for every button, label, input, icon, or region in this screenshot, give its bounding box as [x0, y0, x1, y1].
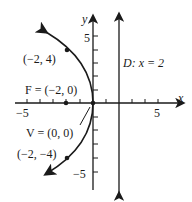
vertex-point — [91, 101, 96, 106]
x-tick-5: 5 — [154, 107, 160, 119]
point-bottom — [65, 156, 70, 161]
x-axis-label: x — [178, 92, 183, 104]
focus-point — [64, 101, 69, 106]
y-tick-5: 5 — [84, 32, 90, 44]
focus-label: F = (−2, 0) — [25, 84, 77, 96]
y-axis-label: y — [82, 13, 87, 25]
vertex-leader — [80, 107, 90, 125]
point-top-label: (−2, 4) — [23, 53, 56, 65]
point-bottom-label: (−2, −4) — [17, 148, 57, 160]
vertex-label: V = (0, 0) — [26, 127, 73, 139]
x-tick-neg5: −5 — [16, 107, 29, 119]
point-top — [65, 48, 70, 53]
directrix-label: D: x = 2 — [123, 57, 164, 69]
y-tick-neg5: −5 — [73, 168, 86, 180]
parabola-diagram — [0, 0, 192, 202]
